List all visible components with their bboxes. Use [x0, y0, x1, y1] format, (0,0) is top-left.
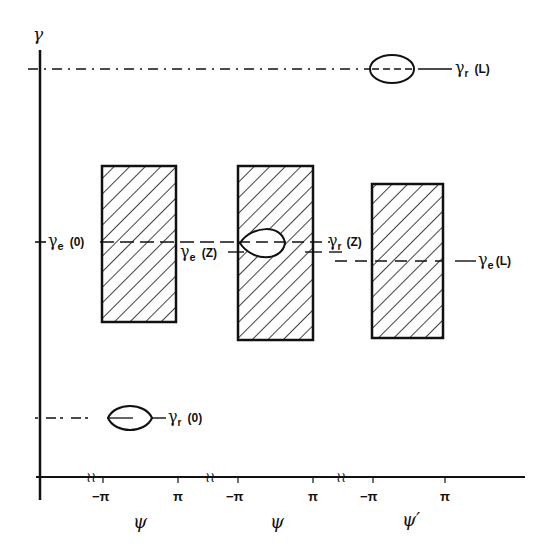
x-axis-label-psi: ψ — [270, 511, 285, 532]
axis-break-icon: ≀≀ — [205, 469, 215, 485]
axis-break-icon: ≀≀ — [86, 469, 96, 485]
hatched-region-0 — [102, 166, 176, 322]
x-axis-label-psi-prime: ψ′ — [402, 509, 420, 530]
tick-label: π — [308, 489, 318, 504]
y-axis: γ — [33, 24, 44, 500]
gamma-r-0-level: γr(0) — [35, 406, 202, 430]
tick-label: −π — [360, 489, 378, 504]
gamma-r-Z-label: γr(Z) — [328, 231, 362, 252]
tick-label: π — [173, 489, 183, 504]
tick-label: π — [440, 489, 450, 504]
tick-label: −π — [226, 489, 244, 504]
gamma-r-L-level: γr(L) — [28, 55, 490, 83]
gamma-e-L-label: γe(L) — [478, 250, 511, 271]
x-axis: ≀≀ ≀≀ ≀≀ −π π −π π −π π ψ ψ ψ′ — [36, 469, 525, 532]
axis-break-icon: ≀≀ — [336, 469, 346, 485]
tick-label: −π — [92, 489, 110, 504]
gamma-r-0-label: γr(0) — [168, 407, 202, 428]
gamma-r-L-label: γr(L) — [455, 58, 490, 79]
y-axis-label: γ — [33, 24, 44, 44]
gamma-e-Z-label: γe(Z) — [180, 242, 217, 263]
x-axis-label-psi: ψ — [133, 511, 148, 532]
phase-diagram: γ ≀≀ ≀≀ ≀≀ −π π −π π −π π ψ ψ ψ′ — [0, 0, 550, 555]
gamma-e-0-label: γe(0) — [48, 231, 84, 252]
